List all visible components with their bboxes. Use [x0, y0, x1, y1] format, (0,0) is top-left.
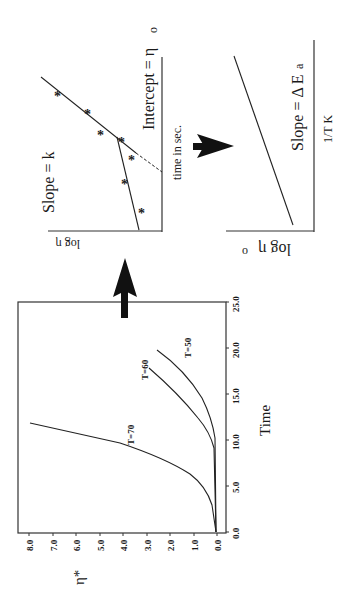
log-eta0-axis-title: log η o — [242, 240, 291, 259]
star-point: * — [84, 107, 91, 122]
curve-t50 — [157, 350, 216, 532]
y-tick-0: 0.0 — [213, 539, 223, 551]
curve-t70 — [30, 423, 216, 532]
star-point: * — [138, 206, 145, 221]
data-points: * * * * * * * — [54, 89, 145, 221]
x-tick-2: 10.0 — [231, 434, 241, 450]
label-t60: T=60 — [140, 359, 150, 380]
y-tick-1: 1.0 — [190, 539, 200, 551]
star-point: * — [121, 177, 128, 192]
log-eta-axis-title: log η — [55, 237, 80, 251]
y-tick-4: 4.0 — [119, 539, 129, 551]
slope-ea-label: Slope = Δ E a — [289, 63, 307, 151]
intercept-label: Intercept = η o — [140, 27, 160, 130]
slope-ea-text: Slope = Δ E — [289, 74, 307, 151]
star-point: * — [128, 153, 135, 168]
log-eta0-subscript: o — [242, 245, 248, 259]
extrapolation-dashed-line — [136, 153, 162, 172]
inv-temp-axis-title: 1/T K — [321, 115, 335, 143]
label-t70: T=70 — [126, 424, 136, 445]
y-tick-3: 3.0 — [143, 539, 153, 551]
up-arrow — [113, 258, 137, 318]
intercept-text: Intercept = η — [140, 48, 158, 130]
plot-frame — [18, 302, 226, 533]
curves — [30, 350, 216, 532]
main-chart: 0.0 1.0 2.0 3.0 4.0 5.0 6.0 7.0 8.0 η* 0… — [18, 296, 273, 585]
time-axis-title: time in sec. — [170, 125, 184, 180]
log-time-diagram: * * * * * * * Slope = k Intercept = η o … — [40, 27, 184, 251]
right-arrow — [193, 134, 234, 158]
figure: 0.0 1.0 2.0 3.0 4.0 5.0 6.0 7.0 8.0 η* 0… — [0, 0, 346, 591]
slope-ea-subscript: a — [292, 63, 306, 69]
x-tick-5: 25.0 — [231, 296, 241, 312]
star-point: * — [118, 135, 125, 150]
x-tick-1: 5.0 — [231, 481, 241, 493]
star-point: * — [97, 128, 104, 143]
y-axis-tick-labels: 0.0 1.0 2.0 3.0 4.0 5.0 6.0 7.0 8.0 — [25, 539, 223, 551]
y-tick-6: 6.0 — [72, 539, 82, 551]
x-axis-tick-labels: 0.0 5.0 10.0 15.0 20.0 25.0 — [231, 296, 241, 539]
label-t50: T=50 — [183, 337, 193, 358]
slope-k-label: Slope = k — [40, 152, 58, 213]
y-tick-8: 8.0 — [25, 539, 35, 551]
x-tick-0: 0.0 — [231, 527, 241, 539]
y-tick-7: 7.0 — [49, 539, 59, 551]
curve-t60 — [149, 368, 216, 532]
arrhenius-line — [234, 56, 293, 225]
intercept-subscript: o — [146, 27, 160, 33]
x-axis-title: Time — [257, 405, 273, 436]
x-tick-3: 15.0 — [231, 388, 241, 404]
y-axis-title: η* — [71, 570, 87, 585]
x-tick-4: 20.0 — [231, 342, 241, 358]
star-point: * — [54, 89, 61, 104]
log-eta0-text: log η — [258, 240, 291, 258]
y-tick-2: 2.0 — [166, 539, 176, 551]
arrhenius-diagram: Slope = Δ E a 1/T K log η o — [226, 40, 335, 259]
y-tick-5: 5.0 — [96, 539, 106, 551]
